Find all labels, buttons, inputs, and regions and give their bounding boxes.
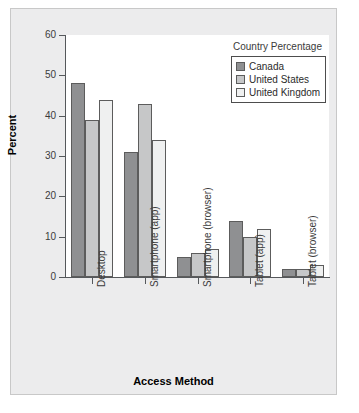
y-tick: 20 (11, 196, 65, 197)
legend-item: Canada (236, 60, 320, 73)
y-tick-label: 30 (45, 149, 56, 162)
y-tick: 10 (11, 237, 65, 238)
x-tick-label: Tablet (app) (254, 234, 265, 287)
x-tick-label: Smartphone (browser) (202, 188, 213, 287)
legend-label: Canada (249, 61, 284, 73)
y-tick: 40 (11, 116, 65, 117)
legend-item: United States (236, 73, 320, 86)
y-tick-mark (59, 196, 65, 197)
y-tick-mark (59, 156, 65, 157)
y-tick: 60 (11, 35, 65, 36)
y-tick: 0 (11, 277, 65, 278)
y-tick-label: 60 (45, 28, 56, 41)
bar (124, 152, 138, 277)
y-tick: 50 (11, 75, 65, 76)
y-tick-mark (59, 75, 65, 76)
bar (71, 83, 85, 277)
chart-panel: 0102030405060 Percent DesktopSmartphone … (10, 8, 337, 395)
x-tick-mark (303, 278, 304, 284)
y-tick-label: 0 (50, 270, 56, 283)
y-tick-label: 50 (45, 68, 56, 81)
x-tick-mark (250, 278, 251, 284)
x-tick-label: Tablet (browser) (307, 215, 318, 287)
legend-label: United Kingdom (249, 87, 320, 99)
y-tick-mark (59, 277, 65, 278)
x-tick-mark (92, 278, 93, 284)
x-tick-mark (145, 278, 146, 284)
bar (282, 269, 296, 277)
legend-item: United Kingdom (236, 86, 320, 99)
legend-swatch-icon (236, 75, 245, 84)
y-tick-label: 20 (45, 189, 56, 202)
chart-legend: CanadaUnited StatesUnited Kingdom (231, 56, 326, 103)
y-tick-mark (59, 35, 65, 36)
x-tick-mark (198, 278, 199, 284)
legend-title: Country Percentage (233, 41, 322, 52)
x-axis-title: Access Method (11, 375, 336, 387)
x-tick-label: Desktop (96, 250, 107, 287)
y-axis-line (65, 35, 66, 278)
y-tick: 30 (11, 156, 65, 157)
y-tick-label: 10 (45, 230, 56, 243)
y-tick-label: 40 (45, 109, 56, 122)
y-tick-mark (59, 237, 65, 238)
bar (177, 257, 191, 277)
legend-label: United States (249, 74, 309, 86)
y-axis-title: Percent (6, 115, 18, 155)
x-tick-label: Smartphone (app) (149, 206, 160, 287)
y-tick-mark (59, 116, 65, 117)
legend-swatch-icon (236, 88, 245, 97)
bar (229, 221, 243, 277)
legend-swatch-icon (236, 62, 245, 71)
